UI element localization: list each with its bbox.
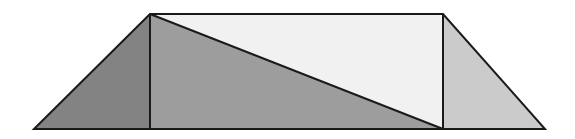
figure-canvas [0, 0, 575, 139]
trapezoid-figure [0, 0, 575, 139]
